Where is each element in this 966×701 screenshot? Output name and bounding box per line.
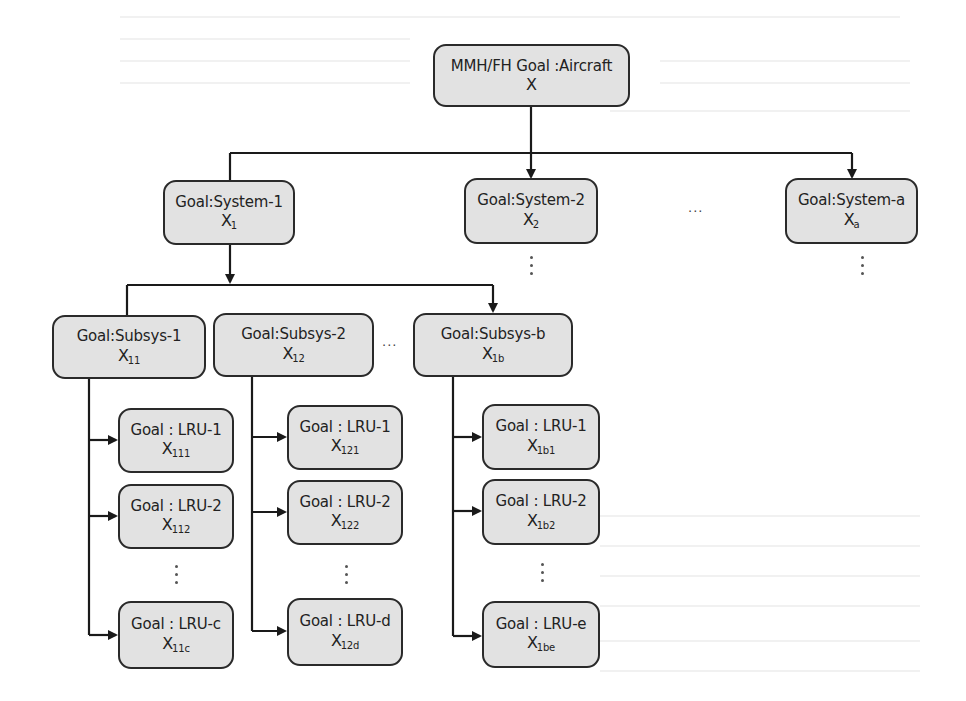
lru-column-2-ellipsis xyxy=(345,565,348,584)
node-variable: X1 xyxy=(221,211,237,232)
systems-ellipsis: ··· xyxy=(688,204,703,219)
node-title: Goal : LRU-1 xyxy=(495,417,586,435)
node-variable: X111 xyxy=(162,439,190,460)
node-lru-111: Goal : LRU-1 X111 xyxy=(118,408,234,473)
node-system-1: Goal:System-1 X1 xyxy=(163,180,295,245)
node-subsys-2: Goal:Subsys-2 X12 xyxy=(213,313,374,377)
node-lru-112: Goal : LRU-2 X112 xyxy=(118,484,234,549)
node-lru-121: Goal : LRU-1 X121 xyxy=(287,405,403,470)
node-title: Goal:System-a xyxy=(798,191,905,209)
lru-column-1-ellipsis xyxy=(175,565,178,584)
node-variable: X1b1 xyxy=(527,436,555,457)
node-title: Goal : LRU-1 xyxy=(130,421,221,439)
node-title: Goal : LRU-2 xyxy=(130,497,221,515)
node-title: Goal : LRU-d xyxy=(299,612,390,630)
node-title: Goal : LRU-1 xyxy=(299,418,390,436)
node-system-2: Goal:System-2 X2 xyxy=(464,178,598,244)
node-title: Goal:System-1 xyxy=(175,193,283,211)
node-variable: X122 xyxy=(331,511,359,532)
node-variable: X1be xyxy=(527,633,555,654)
node-lru-1b1: Goal : LRU-1 X1b1 xyxy=(482,404,600,470)
node-variable: X11 xyxy=(118,346,140,367)
node-variable: X12d xyxy=(331,631,359,652)
node-variable: X2 xyxy=(523,210,539,231)
node-title: Goal:Subsys-2 xyxy=(241,325,346,343)
node-variable: X1b xyxy=(482,344,504,365)
node-lru-1be: Goal : LRU-e X1be xyxy=(482,601,600,668)
node-title: MMH/FH Goal :Aircraft xyxy=(451,57,612,75)
node-lru-11c: Goal : LRU-c X11c xyxy=(118,601,234,669)
node-lru-12d: Goal : LRU-d X12d xyxy=(287,598,403,666)
node-variable: X12 xyxy=(282,344,304,365)
node-title: Goal : LRU-2 xyxy=(495,492,586,510)
node-title: Goal:Subsys-b xyxy=(441,325,546,343)
system-2-ellipsis xyxy=(530,256,533,275)
subsystems-ellipsis: ··· xyxy=(382,338,397,353)
node-title: Goal : LRU-e xyxy=(496,615,587,633)
node-subsys-1: Goal:Subsys-1 X11 xyxy=(52,315,206,379)
node-variable: X112 xyxy=(162,515,190,536)
node-aircraft-goal: MMH/FH Goal :Aircraft X xyxy=(433,44,630,107)
node-variable: X11c xyxy=(162,634,189,655)
node-title: Goal:Subsys-1 xyxy=(77,327,182,345)
system-a-ellipsis xyxy=(861,256,864,275)
node-title: Goal:System-2 xyxy=(477,191,585,209)
node-title: Goal : LRU-2 xyxy=(299,493,390,511)
node-variable: X1b2 xyxy=(527,511,555,532)
node-variable: Xa xyxy=(844,210,860,231)
node-lru-122: Goal : LRU-2 X122 xyxy=(287,480,403,545)
node-system-a: Goal:System-a Xa xyxy=(785,178,918,244)
lru-column-3-ellipsis xyxy=(541,563,544,582)
node-title: Goal : LRU-c xyxy=(131,615,221,633)
node-variable: X121 xyxy=(331,436,359,457)
node-lru-1b2: Goal : LRU-2 X1b2 xyxy=(482,479,600,545)
node-variable: X xyxy=(526,75,537,95)
node-subsys-b: Goal:Subsys-b X1b xyxy=(413,313,573,377)
